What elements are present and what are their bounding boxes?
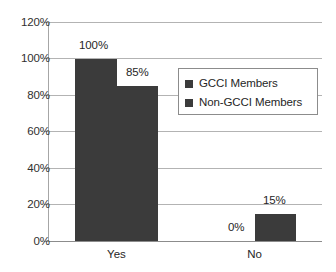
legend-label-gcci-members: GCCI Members (199, 78, 278, 90)
gridline-0 (48, 241, 322, 242)
legend-item-non-gcci-members: Non-GCCI Members (185, 93, 317, 112)
bar-yes-gcci-members (75, 59, 117, 241)
value-label-yes-non-gcci-members: 85% (126, 67, 149, 79)
value-label-no-gcci-members: 0% (228, 222, 244, 234)
bar-chart: 120% 100% 80% 60% 40% 20% 0% 100% 85% 0%… (0, 0, 336, 272)
bar-no-non-gcci-members (255, 214, 296, 241)
value-label-yes-gcci-members: 100% (79, 40, 108, 52)
y-axis-label-40: 40% (6, 163, 50, 175)
y-axis-label-120: 120% (6, 17, 50, 29)
bar-yes-non-gcci-members (117, 86, 158, 241)
y-axis-label-100: 100% (6, 53, 50, 65)
value-label-no-non-gcci-members: 15% (263, 195, 286, 207)
x-axis-label-yes: Yes (75, 249, 158, 261)
x-axis-label-no: No (213, 249, 296, 261)
legend-swatch-icon (185, 99, 193, 107)
legend-item-gcci-members: GCCI Members (185, 74, 317, 93)
legend-label-non-gcci-members: Non-GCCI Members (199, 97, 302, 109)
chart-legend: GCCI Members Non-GCCI Members (178, 68, 318, 115)
legend-swatch-icon (185, 80, 193, 88)
y-axis-label-60: 60% (6, 126, 50, 138)
y-axis-label-80: 80% (6, 90, 50, 102)
y-axis-label-20: 20% (6, 199, 50, 211)
y-axis-label-0: 0% (6, 236, 50, 248)
gridline-120 (48, 22, 322, 23)
